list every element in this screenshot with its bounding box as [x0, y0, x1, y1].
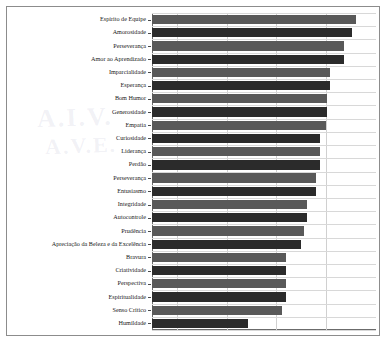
bar-row: [152, 28, 376, 37]
y-tick-mark: [148, 20, 151, 21]
y-tick-mark: [148, 112, 151, 113]
gridline-horizontal-9: [152, 132, 376, 133]
bar-row: [152, 200, 376, 209]
bar-row: [152, 279, 376, 288]
bar-row: [152, 319, 376, 328]
y-tick-label: Criatividade: [115, 267, 146, 273]
gridline-horizontal-7: [152, 105, 376, 106]
gridline-horizontal-13: [152, 185, 376, 186]
y-tick-label: Entusiasmo: [117, 188, 146, 194]
y-tick-label: Apreciação da Beleza e da Excelência: [52, 241, 146, 247]
gridline-horizontal-0: [152, 13, 376, 14]
y-tick-label: Esperança: [121, 82, 146, 88]
bar-row: [152, 187, 376, 196]
bar-row: [152, 107, 376, 116]
gridline-horizontal-17: [152, 238, 376, 239]
bar-row: [152, 41, 376, 50]
y-tick-mark: [148, 33, 151, 34]
gridline-horizontal-2: [152, 39, 376, 40]
y-tick-label: Espiritualidade: [109, 294, 146, 300]
y-tick-mark: [148, 310, 151, 311]
bar-row: [152, 213, 376, 222]
bar-row: [152, 81, 376, 90]
y-tick-label: Perseverança: [113, 175, 146, 181]
bar-row: [152, 15, 376, 24]
y-tick-label: Espírito de Equipe: [100, 16, 146, 22]
y-tick-mark: [148, 297, 151, 298]
plot-area: [152, 13, 376, 330]
gridline-horizontal-18: [152, 251, 376, 252]
bar: [152, 213, 307, 222]
bar: [152, 279, 286, 288]
gridline-horizontal-19: [152, 264, 376, 265]
gridline-horizontal-15: [152, 211, 376, 212]
gridline-horizontal-23: [152, 317, 376, 318]
y-tick-label: Curiosidade: [116, 135, 146, 141]
bar-row: [152, 68, 376, 77]
gridline-horizontal-5: [152, 79, 376, 80]
bar-row: [152, 147, 376, 156]
y-tick-label: Perdão: [129, 161, 146, 167]
bar-row: [152, 253, 376, 262]
bar: [152, 266, 286, 275]
y-tick-label: Bravura: [126, 254, 146, 260]
y-tick-label: Prudência: [121, 228, 146, 234]
gridline-horizontal-22: [152, 304, 376, 305]
y-tick-mark: [148, 244, 151, 245]
bar: [152, 292, 286, 301]
y-tick-mark: [148, 86, 151, 87]
y-tick-label: Autocontrole: [113, 214, 146, 220]
bar-row: [152, 160, 376, 169]
y-tick-label: Perseverança: [113, 43, 146, 49]
y-tick-label: Liderança: [121, 148, 146, 154]
y-tick-mark: [148, 99, 151, 100]
gridline-horizontal-6: [152, 92, 376, 93]
y-tick-mark: [148, 178, 151, 179]
bar: [152, 253, 286, 262]
y-tick-mark: [148, 284, 151, 285]
gridline-horizontal-14: [152, 198, 376, 199]
bar-row: [152, 173, 376, 182]
bar-row: [152, 226, 376, 235]
bar: [152, 28, 352, 37]
y-tick-label: Amorosidade: [113, 29, 146, 35]
bar: [152, 15, 356, 24]
bar-row: [152, 94, 376, 103]
gridline-horizontal-4: [152, 66, 376, 67]
y-tick-label: Bom Humor: [115, 95, 146, 101]
gridline-horizontal-11: [152, 158, 376, 159]
bar-row: [152, 292, 376, 301]
bar: [152, 68, 330, 77]
gridline-horizontal-16: [152, 224, 376, 225]
y-tick-mark: [148, 152, 151, 153]
bar: [152, 147, 320, 156]
y-tick-mark: [148, 231, 151, 232]
y-tick-mark: [148, 46, 151, 47]
y-tick-mark: [148, 257, 151, 258]
bar: [152, 55, 344, 64]
gridline-horizontal-1: [152, 26, 376, 27]
bar: [152, 41, 344, 50]
y-tick-label: Empatia: [125, 122, 146, 128]
gridline-horizontal-20: [152, 277, 376, 278]
gridline-horizontal-24: [152, 330, 376, 331]
bar: [152, 187, 316, 196]
y-tick-mark: [148, 138, 151, 139]
bar: [152, 319, 248, 328]
bar: [152, 226, 304, 235]
y-tick-label: Amor ao Aprendizado: [91, 56, 146, 62]
bar-row: [152, 240, 376, 249]
y-tick-label: Humildade: [119, 320, 147, 326]
bar: [152, 121, 326, 130]
gridline-horizontal-8: [152, 119, 376, 120]
bar: [152, 160, 320, 169]
y-tick-mark: [148, 191, 151, 192]
y-tick-label: Integridade: [118, 201, 146, 207]
bar: [152, 200, 307, 209]
chart-figure: A.I.V. A.V.E. Espírito de EquipeAmorosid…: [0, 0, 388, 344]
gridline-horizontal-10: [152, 145, 376, 146]
y-tick-mark: [148, 59, 151, 60]
bar: [152, 240, 301, 249]
bar-row: [152, 306, 376, 315]
gridline-horizontal-12: [152, 172, 376, 173]
